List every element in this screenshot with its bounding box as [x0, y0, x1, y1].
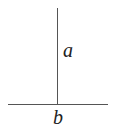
label-a: a [63, 40, 73, 60]
diagram-canvas: a b [0, 0, 116, 128]
label-b: b [53, 107, 63, 127]
line-a [57, 8, 58, 105]
line-b [8, 104, 108, 105]
